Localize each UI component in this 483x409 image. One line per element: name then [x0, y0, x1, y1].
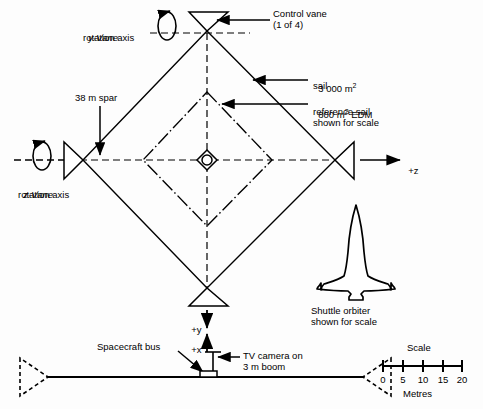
z-vane-rotation-axis-label-line2: rotation axis [18, 189, 69, 200]
scale-bar-title: Scale [407, 342, 431, 353]
edge-on-spacecraft-view [20, 352, 391, 396]
edm-sail-label-line2: reference sail [313, 106, 370, 117]
sail-label-line2: sail [313, 80, 327, 91]
scale-bar-units: Metres [403, 388, 432, 399]
y-vane-rotation-arrow-icon [158, 11, 176, 40]
tv-camera-label-line2: 3 m boom [243, 361, 285, 372]
control-vane-label-line1: Control vane [273, 8, 327, 19]
control-vane-right [335, 142, 354, 179]
scale-tick-label-5: 5 [399, 374, 407, 385]
centre-hub [197, 150, 217, 170]
scale-tick-label-10: 10 [416, 374, 430, 385]
control-vane-bottom [189, 288, 228, 306]
shuttle-orbiter-label-line2: shown for scale [311, 316, 377, 327]
spacecraft-bus-label: Spacecraft bus [97, 341, 160, 352]
scale-tick-label-15: 15 [436, 374, 450, 385]
spar-label: 38 m spar [75, 92, 117, 103]
tv-camera-label-line1: TV camera on [243, 350, 303, 361]
scale-tick-label-20: 20 [455, 374, 469, 385]
y-vane-rotation-axis-label-line2: rotation axis [83, 32, 134, 43]
shuttle-orbiter-silhouette [317, 205, 395, 300]
axis-z-text: +z [408, 165, 418, 176]
axis-x-text: +x [191, 344, 201, 355]
scale-tick-label-0: 0 [379, 374, 387, 385]
axis-z-label: +z [403, 154, 419, 176]
shuttle-orbiter-label-line1: Shuttle orbiter [311, 305, 370, 316]
control-vane-top [189, 12, 228, 31]
axis-y-label: +y [186, 313, 202, 335]
edm-sail-label-line3: shown for scale [313, 117, 379, 128]
scale-bar [383, 360, 462, 372]
sail-area-exponent: 2 [353, 82, 357, 89]
control-vane-label-line2: (1 of 4) [273, 19, 303, 30]
control-vane-left [64, 142, 83, 179]
z-vane-rotation-arrow-icon [33, 141, 51, 170]
axis-x-label: +x [186, 333, 202, 355]
